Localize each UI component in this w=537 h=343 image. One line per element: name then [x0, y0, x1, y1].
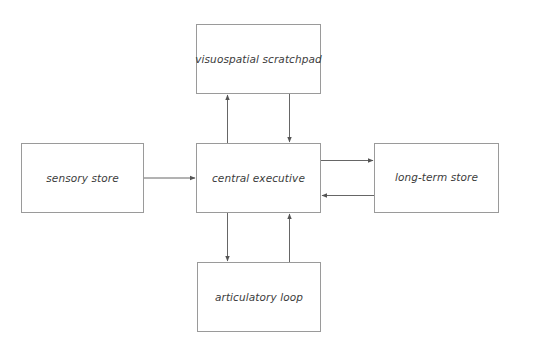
sensory-store-label: sensory store [46, 172, 118, 184]
long-term-store-label: long-term store [395, 171, 478, 183]
central-executive-box: central executive [196, 143, 321, 213]
central-executive-label: central executive [212, 172, 305, 184]
long-term-store-box: long-term store [374, 143, 499, 213]
articulatory-loop-box: articulatory loop [197, 262, 321, 332]
visuospatial-scratchpad-box: visuospatial scratchpad [196, 24, 321, 94]
sensory-store-box: sensory store [21, 143, 144, 213]
working-memory-diagram: visuospatial scratchpad sensory store ce… [0, 0, 537, 343]
visuospatial-scratchpad-label: visuospatial scratchpad [195, 53, 322, 65]
articulatory-loop-label: articulatory loop [215, 291, 303, 303]
